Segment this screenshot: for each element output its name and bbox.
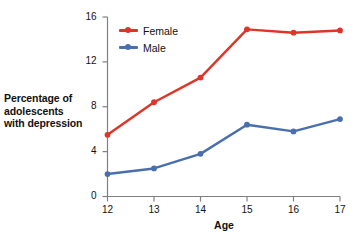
data-point-female	[198, 75, 204, 81]
data-point-male	[151, 166, 157, 172]
legend-item-female[interactable]: Female	[119, 23, 178, 38]
y-tick-label: 8	[75, 100, 97, 111]
data-point-female	[337, 28, 343, 34]
data-point-female	[244, 26, 250, 32]
y-tick-label: 16	[75, 11, 97, 22]
x-tick-label: 14	[189, 204, 213, 215]
x-tick-label: 16	[282, 204, 306, 215]
x-axis-title: Age	[107, 219, 341, 231]
data-point-male	[105, 171, 111, 177]
x-tick-label: 13	[142, 204, 166, 215]
legend-label: Female	[143, 25, 178, 37]
data-point-male	[337, 116, 343, 122]
x-tick-marks	[108, 197, 341, 202]
y-tick-label: 4	[75, 145, 97, 156]
legend-label: Male	[143, 42, 166, 54]
data-point-male	[291, 129, 297, 135]
data-point-male	[198, 151, 204, 157]
x-tick-label: 17	[328, 204, 352, 215]
data-point-female	[105, 132, 111, 138]
y-tick-marks	[103, 17, 108, 197]
series-line-male	[108, 119, 341, 174]
y-tick-label: 0	[75, 190, 97, 201]
x-tick-label: 15	[235, 204, 259, 215]
x-tick-label: 12	[96, 204, 120, 215]
y-tick-label: 12	[75, 55, 97, 66]
legend-marker-icon	[119, 25, 138, 36]
data-point-female	[151, 99, 157, 105]
chart-legend: FemaleMale	[119, 23, 178, 57]
legend-item-male[interactable]: Male	[119, 40, 178, 55]
data-point-female	[291, 30, 297, 36]
y-axis-title-line-3: with depression	[4, 117, 96, 130]
legend-marker-icon	[119, 42, 138, 53]
data-point-male	[244, 122, 250, 128]
line-chart: Percentage of adolescents with depressio…	[0, 0, 357, 243]
